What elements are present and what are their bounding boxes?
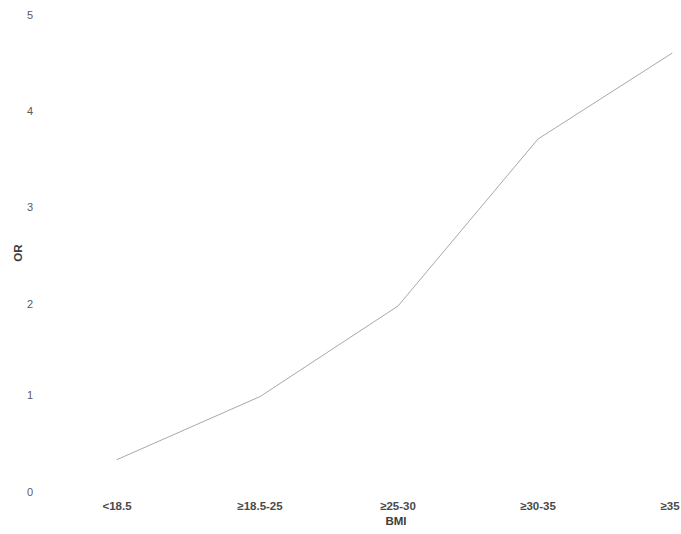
y-axis-tick-2: 2: [0, 298, 33, 310]
plot-area: [0, 0, 681, 534]
x-axis-tick-obese-2: ≥35: [660, 500, 679, 513]
y-axis-tick-1: 1: [0, 389, 33, 401]
x-axis-tick-normal: ≥18.5-25: [237, 500, 282, 513]
x-axis-title: BMI: [385, 515, 406, 527]
y-axis-tick-4: 4: [0, 105, 33, 117]
x-axis-tick-underweight: <18.5: [102, 500, 131, 513]
or-bmi-line-chart: 5 4 3 2 1 0 OR <18.5 ≥18.5-25 ≥25-30 ≥30…: [0, 0, 681, 534]
y-axis-tick-3: 3: [0, 201, 33, 213]
y-axis-tick-5: 5: [0, 9, 33, 21]
x-axis-tick-overweight: ≥25-30: [380, 500, 416, 513]
y-axis-tick-0: 0: [0, 486, 33, 498]
x-axis-tick-obese-1: ≥30-35: [520, 500, 556, 513]
y-axis-title: OR: [12, 227, 24, 279]
or-trend-line: [117, 53, 672, 459]
